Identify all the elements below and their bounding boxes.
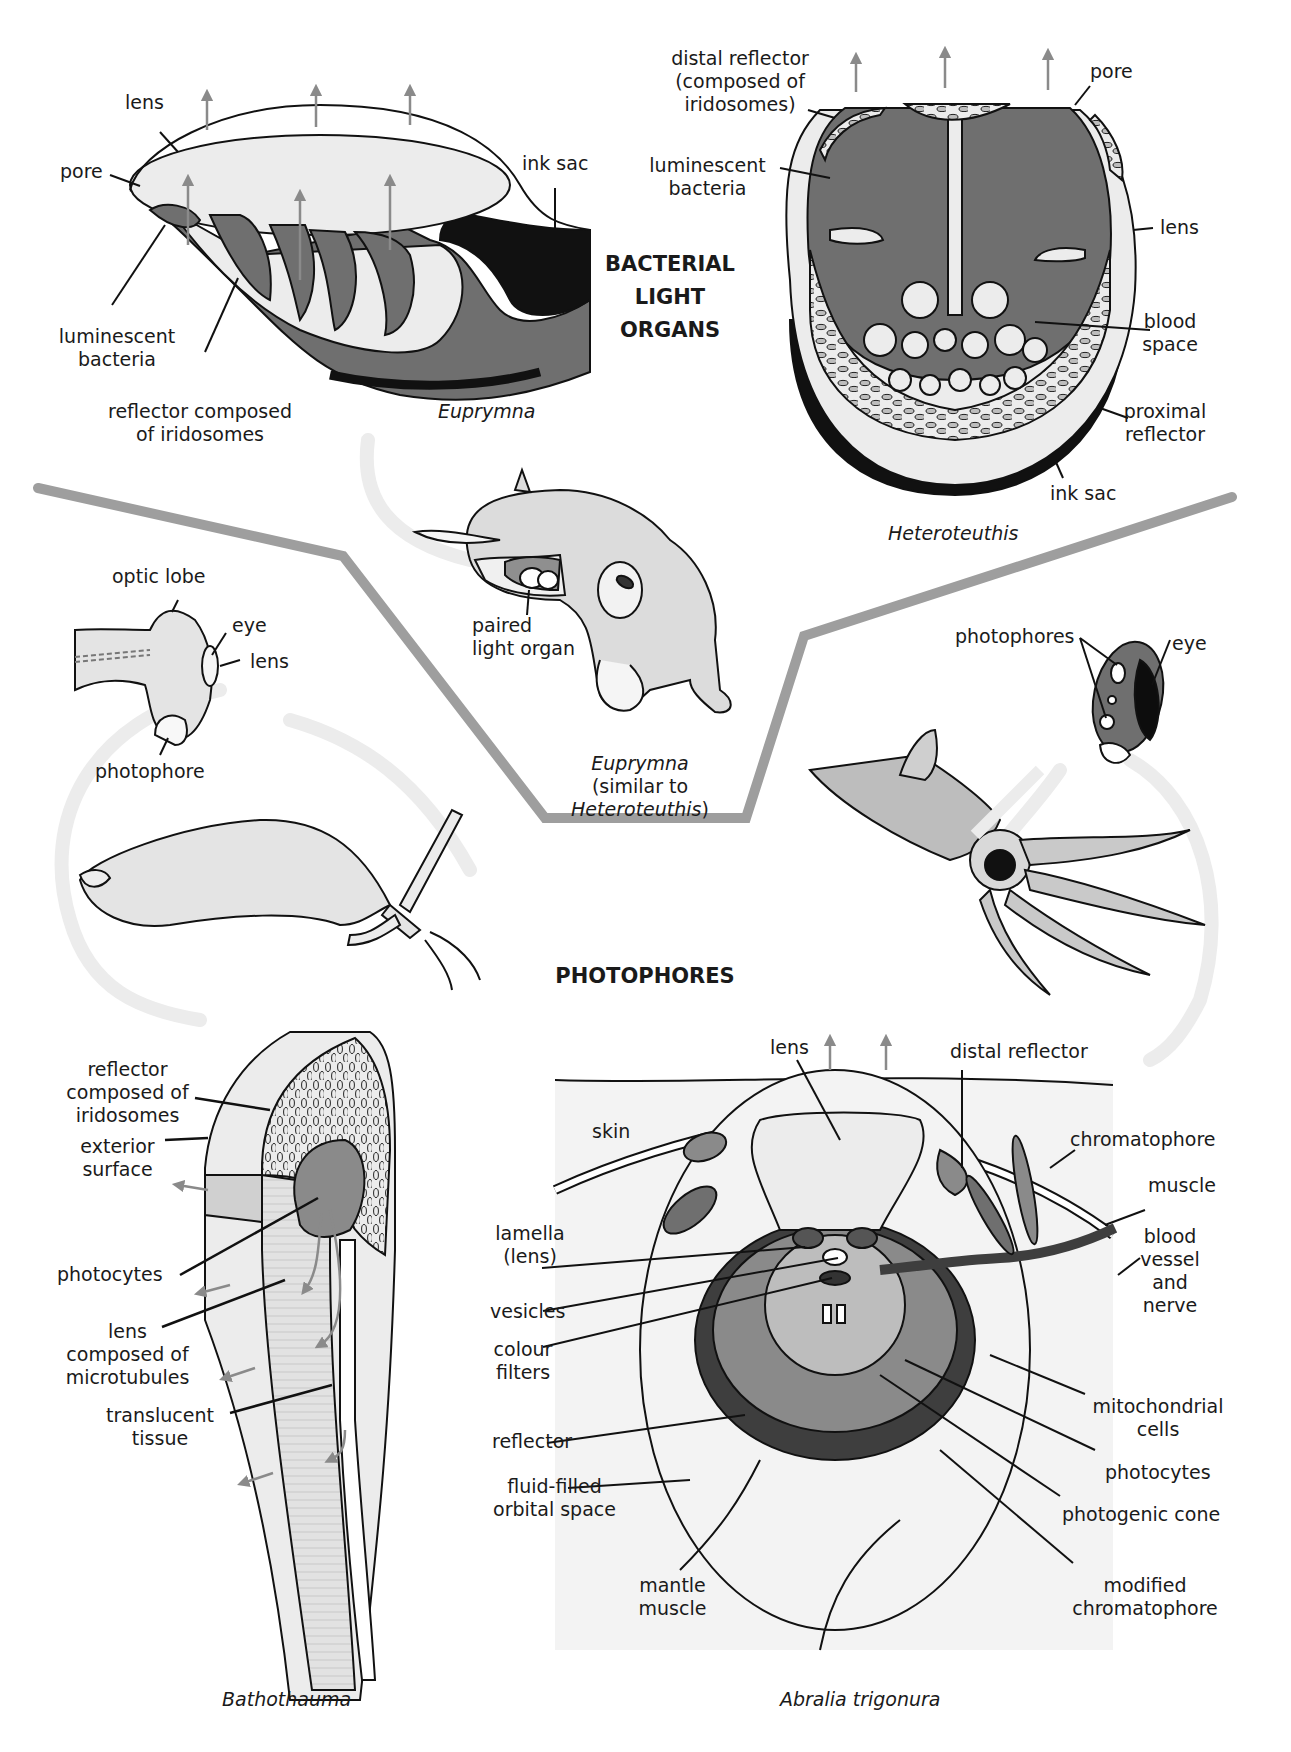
label-lamella-lens: lamella (lens) [490, 1222, 570, 1268]
label-eye: eye [232, 614, 267, 637]
label-distal-reflector: distal reflector (composed of iridosomes… [655, 47, 825, 116]
label-ink-sac: ink sac [522, 152, 588, 175]
label-lens: lens [770, 1036, 809, 1059]
label-chromatophore: chromatophore [1070, 1128, 1216, 1151]
label-ink-sac: ink sac [1050, 482, 1116, 505]
euprymna-animal-drawing [415, 470, 731, 712]
caption-abralia-trigonura: Abralia trigonura [780, 1688, 941, 1711]
label-photocytes: photocytes [57, 1263, 163, 1286]
caption-similar-to: (similar to [565, 775, 715, 798]
label-muscle: muscle [1148, 1174, 1216, 1197]
label-exterior-surface: exterior surface [65, 1135, 170, 1181]
heading-bacterial-light-organs: BACTERIAL LIGHT ORGANS [600, 248, 740, 347]
label-fluid-filled-orbital-space: fluid-filled orbital space [487, 1475, 622, 1521]
label-photogenic-cone: photogenic cone [1062, 1503, 1220, 1526]
heteroteuthis-organ-drawing [780, 52, 1153, 495]
label-blood-vessel-nerve: blood vessel and nerve [1130, 1225, 1210, 1317]
bathothauma-head-drawing [75, 600, 240, 755]
caption-heteroteuthis-ref: Heteroteuthis) [560, 798, 720, 821]
caption-paren-close: ) [701, 798, 708, 820]
label-lens: lens [125, 91, 164, 114]
label-luminescent-bacteria: luminescent bacteria [52, 325, 182, 371]
label-lens: lens [1160, 216, 1199, 239]
caption-euprymna-organ: Euprymna [438, 400, 535, 423]
label-lens-microtubules: lens composed of microtubules [55, 1320, 200, 1389]
label-paired-light-organ: paired light organ [472, 614, 575, 660]
label-skin: skin [592, 1120, 630, 1143]
label-reflector-iridosomes: reflector composed of iridosomes [95, 400, 305, 446]
abralia-section-drawing [542, 1040, 1145, 1650]
label-photocytes: photocytes [1105, 1461, 1211, 1484]
euprymna-organ-drawing [110, 90, 590, 400]
label-modified-chromatophore: modified chromatophore [1060, 1574, 1230, 1620]
label-proximal-reflector: proximal reflector [1115, 400, 1215, 446]
label-pore: pore [60, 160, 103, 183]
label-luminescent-bacteria: luminescent bacteria [635, 154, 780, 200]
label-mantle-muscle: mantle muscle [630, 1574, 715, 1620]
label-lens: lens [250, 650, 289, 673]
caption-euprymna-animal: Euprymna [565, 752, 715, 775]
label-photophores: photophores [955, 625, 1075, 648]
caption-heteroteuthis-ref-name: Heteroteuthis [571, 798, 701, 820]
label-translucent-tissue: translucent tissue [95, 1404, 225, 1450]
caption-bathothauma: Bathothauma [222, 1688, 351, 1711]
label-reflector: reflector [492, 1430, 572, 1453]
label-colour-filters: colour filters [488, 1338, 558, 1384]
bathothauma-body-drawing [80, 810, 480, 990]
label-mitochondrial-cells: mitochondrial cells [1088, 1395, 1228, 1441]
label-pore: pore [1090, 60, 1133, 83]
label-distal-reflector: distal reflector [950, 1040, 1088, 1063]
abralia-head-drawing [1080, 635, 1173, 763]
label-reflector-iridosomes: reflector composed of iridosomes [55, 1058, 200, 1127]
label-eye: eye [1172, 632, 1207, 655]
label-photophore: photophore [95, 760, 205, 783]
label-vesicles: vesicles [490, 1300, 565, 1323]
label-blood-space: blood space [1130, 310, 1210, 356]
heading-photophores: PHOTOPHORES [555, 960, 735, 993]
caption-heteroteuthis: Heteroteuthis [888, 522, 1018, 545]
label-optic-lobe: optic lobe [112, 565, 206, 588]
